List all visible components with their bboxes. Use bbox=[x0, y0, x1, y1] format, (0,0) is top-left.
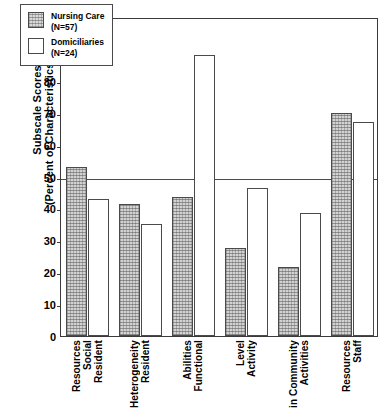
x-axis-category-label-line: Activity bbox=[247, 340, 257, 377]
y-axis-tick-label-60: 60 bbox=[30, 140, 56, 151]
y-axis-tick-label-80: 80 bbox=[30, 76, 56, 87]
x-axis-category-label-line: Level bbox=[236, 340, 246, 366]
legend-swatch-icon-domiciliaries bbox=[28, 38, 44, 54]
legend-swatch-icon-nursing-care bbox=[28, 12, 44, 28]
x-axis-category-label-line: Resident bbox=[93, 340, 103, 383]
bar-group bbox=[114, 19, 167, 336]
x-axis-category-label-line: Staff bbox=[353, 340, 363, 363]
x-axis-category-label-line: Resources bbox=[342, 340, 352, 392]
x-axis-category-label-line: Functional bbox=[194, 340, 204, 392]
bar bbox=[88, 199, 109, 336]
x-axis-category-label-line: Resources bbox=[71, 340, 81, 392]
bar bbox=[331, 113, 352, 336]
y-axis-tick-label-70: 70 bbox=[30, 108, 56, 119]
legend-label-domiciliaries: Domiciliaries (N=24) bbox=[51, 37, 104, 58]
plot-area bbox=[60, 18, 378, 337]
y-axis-tick-label-30: 30 bbox=[30, 236, 56, 247]
y-axis-tick-label-50: 50 bbox=[30, 172, 56, 183]
x-axis-category-label-line: Social bbox=[82, 340, 92, 370]
bar bbox=[66, 167, 87, 336]
bar-group bbox=[167, 19, 220, 336]
y-axis-tick-label-20: 20 bbox=[30, 268, 56, 279]
x-axis-category-label-line: Heterogeneity bbox=[130, 340, 140, 408]
y-axis-tick-label-10: 10 bbox=[30, 300, 56, 311]
bar bbox=[300, 213, 321, 336]
x-axis-category-label-line: Abilities bbox=[183, 340, 193, 380]
x-axis-category-label: ResidentSocialResources bbox=[60, 340, 113, 419]
y-axis-tick-label-0: 0 bbox=[30, 332, 56, 343]
legend-item-domiciliaries: Domiciliaries (N=24) bbox=[28, 37, 104, 58]
x-axis-category-label-line: in Community bbox=[289, 340, 299, 408]
bar bbox=[141, 224, 162, 336]
x-axis-category-label: ResidentHeterogeneity bbox=[113, 340, 166, 419]
bar bbox=[278, 267, 299, 336]
bar bbox=[225, 248, 246, 336]
x-axis-category-label: StaffResources bbox=[325, 340, 378, 419]
bar-chart: Subscale Scores (Percent of Characterist… bbox=[0, 0, 390, 419]
bar bbox=[194, 55, 215, 336]
bar bbox=[172, 197, 193, 336]
x-axis-category-label-line: Resident bbox=[141, 340, 151, 383]
x-axis-category-label: Activitiesin Community bbox=[272, 340, 325, 419]
y-axis-tick-label-40: 40 bbox=[30, 204, 56, 215]
x-axis-category-label-line: Activities bbox=[300, 340, 310, 385]
legend-label-nursing-care: Nursing Care (N=57) bbox=[51, 11, 104, 32]
bar bbox=[247, 188, 268, 336]
legend-label-nursing-care-n: (N=57) bbox=[51, 22, 77, 32]
chart-legend: Nursing Care (N=57) Domiciliaries (N=24) bbox=[20, 4, 113, 66]
legend-label-nursing-care-name: Nursing Care bbox=[51, 11, 104, 21]
bar-group bbox=[220, 19, 273, 336]
legend-item-nursing-care: Nursing Care (N=57) bbox=[28, 11, 104, 32]
x-axis-category-labels: ResidentSocialResourcesResidentHeterogen… bbox=[60, 340, 378, 419]
legend-label-domiciliaries-n: (N=24) bbox=[51, 48, 77, 58]
bar bbox=[119, 204, 140, 336]
bar-group bbox=[61, 19, 114, 336]
legend-label-domiciliaries-name: Domiciliaries bbox=[51, 37, 104, 47]
bar bbox=[353, 122, 374, 336]
x-axis-category-label: ActivityLevel bbox=[219, 340, 272, 419]
bar-group bbox=[273, 19, 326, 336]
bar-group bbox=[326, 19, 379, 336]
x-axis-category-label: FunctionalAbilities bbox=[166, 340, 219, 419]
